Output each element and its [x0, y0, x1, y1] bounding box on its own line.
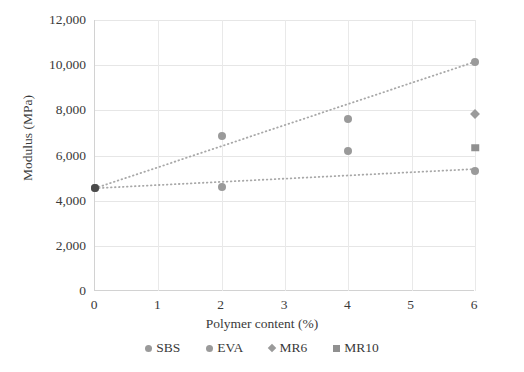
legend-label: EVA	[217, 340, 243, 356]
legend-marker-circle-icon	[145, 345, 152, 352]
data-point-eva	[471, 167, 479, 175]
legend-marker-circle-icon	[206, 345, 213, 352]
trendlines	[95, 20, 475, 291]
legend-marker-square-icon	[333, 345, 340, 352]
data-point-eva	[218, 183, 226, 191]
x-axis-tick-label: 5	[391, 297, 431, 313]
data-point-sbs	[471, 58, 479, 66]
data-point-origin	[91, 184, 99, 192]
y-axis-tick-label: 4,000	[16, 193, 86, 209]
chart-figure: Modulus (MPa) 02,0004,0006,0008,00010,00…	[0, 0, 524, 372]
y-axis-tick-label: 2,000	[16, 238, 86, 254]
legend-item-sbs[interactable]: SBS	[145, 340, 180, 356]
x-axis-tick-label: 3	[264, 297, 304, 313]
x-axis-tick-label: 6	[454, 297, 494, 313]
legend-item-eva[interactable]: EVA	[206, 340, 243, 356]
x-axis-tick-label: 1	[137, 297, 177, 313]
x-axis-title: Polymer content (%)	[0, 316, 524, 332]
data-point-sbs	[344, 115, 352, 123]
trendline-sbs	[95, 62, 475, 188]
y-axis-tick-label: 12,000	[16, 12, 86, 28]
legend-item-mr6[interactable]: MR6	[269, 340, 307, 356]
data-point-eva	[344, 147, 352, 155]
legend-item-mr10[interactable]: MR10	[333, 340, 379, 356]
x-axis-tick-label: 0	[74, 297, 114, 313]
legend-marker-diamond-icon	[268, 344, 276, 352]
y-axis-tick-label: 10,000	[16, 57, 86, 73]
data-point-mr10	[471, 144, 479, 152]
legend-label: MR10	[344, 340, 379, 356]
chart-legend: SBSEVAMR6MR10	[0, 340, 524, 356]
trendline-eva	[95, 169, 475, 188]
legend-label: SBS	[156, 340, 180, 356]
y-axis-tick-label: 6,000	[16, 148, 86, 164]
x-axis-tick-label: 2	[201, 297, 241, 313]
legend-label: MR6	[279, 340, 307, 356]
plot-area	[94, 20, 474, 291]
x-axis-tick-label: 4	[327, 297, 367, 313]
data-point-sbs	[218, 132, 226, 140]
y-axis-tick-label: 8,000	[16, 102, 86, 118]
